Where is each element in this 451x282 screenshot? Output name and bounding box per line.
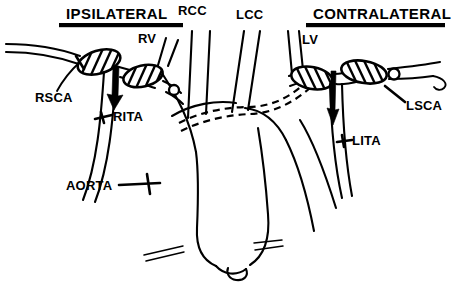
label-lsca: LSCA <box>385 86 443 113</box>
header-contralateral-text: CONTRALATERAL <box>313 5 451 22</box>
header-ipsilateral-text: IPSILATERAL <box>66 5 168 22</box>
left-common-carotid-artery <box>232 31 260 112</box>
label-lv-text: LV <box>302 32 318 47</box>
header-contralateral: CONTRALATERAL <box>306 5 451 27</box>
header-ipsilateral: IPSILATERAL <box>59 5 183 27</box>
label-rcc: RCC <box>178 3 207 18</box>
label-lita-text: LITA <box>352 133 381 148</box>
label-lcc-text: LCC <box>236 7 264 22</box>
label-lcc: LCC <box>236 7 264 22</box>
label-aorta: AORTA <box>66 174 160 194</box>
label-lsca-text: LSCA <box>406 98 443 113</box>
stenosis-proximal-right <box>289 52 336 100</box>
label-aorta-text: AORTA <box>66 178 113 193</box>
anatomical-diagram: IPSILATERAL CONTRALATERAL <box>0 0 451 282</box>
label-lv: LV <box>302 32 318 47</box>
aortic-arch <box>144 70 336 280</box>
label-rita-text: RITA <box>113 109 144 124</box>
header-ipsilateral-underline <box>59 23 183 27</box>
label-rita: RITA <box>95 109 144 124</box>
header-contralateral-underline <box>306 23 445 27</box>
catheter-dashed-path <box>179 82 310 131</box>
catheter-node-right <box>389 69 400 80</box>
label-rv: RV <box>138 31 156 46</box>
label-rv-text: RV <box>138 31 156 46</box>
catheter-node-left <box>169 85 179 95</box>
diagram-canvas: IPSILATERAL CONTRALATERAL <box>0 0 451 282</box>
label-rcc-text: RCC <box>178 3 207 18</box>
label-rsca-text: RSCA <box>35 90 73 105</box>
